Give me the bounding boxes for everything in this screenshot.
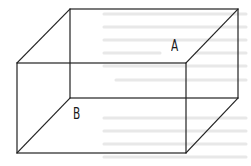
edge-top-left [17,9,70,63]
edge-bottom-right [186,98,238,153]
back-face [70,9,238,98]
label-a: A [171,39,178,54]
edge-bottom-left [17,98,70,153]
front-face [17,63,186,153]
label-b: B [73,107,80,122]
box-diagram [0,0,251,166]
edge-top-right [186,9,238,63]
